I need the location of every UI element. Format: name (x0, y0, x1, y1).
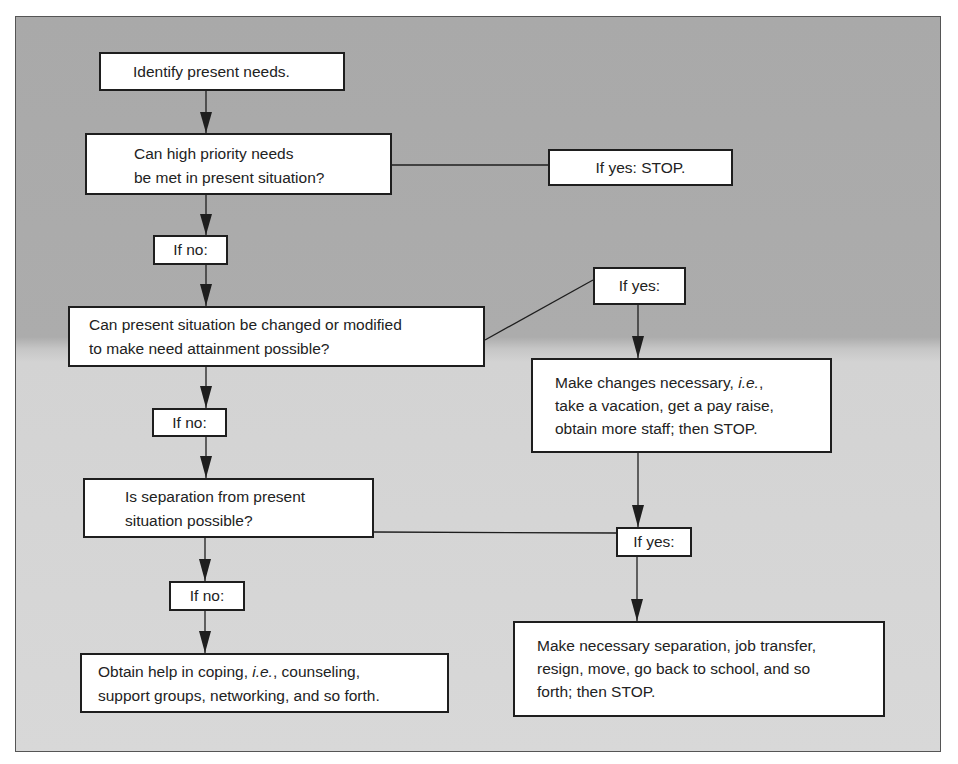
node-if-no-3: If no: (169, 581, 245, 611)
node-question-high-priority: Can high priority needs be met in presen… (85, 133, 392, 195)
node-if-no-2: If no: (152, 408, 227, 437)
node-question-separation: Is separation from present situation pos… (83, 478, 374, 538)
node-text-line-3: obtain more staff; then STOP. (555, 419, 774, 439)
node-text-line-1: Is separation from present (125, 487, 305, 507)
node-text-line-1: Make changes necessary, i.e., (555, 373, 774, 393)
node-text-line-2: to make need attainment possible? (89, 339, 402, 359)
node-text-line-2: situation possible? (125, 511, 305, 531)
node-if-no-1: If no: (153, 235, 228, 265)
node-if-yes-stop: If yes: STOP. (548, 149, 733, 186)
node-obtain-help: Obtain help in coping, i.e., counseling,… (80, 653, 449, 713)
node-text-line-2: be met in present situation? (134, 168, 324, 188)
node-text: If yes: (619, 276, 660, 296)
node-text-line-1: Can present situation be changed or modi… (89, 315, 402, 335)
node-if-yes-3: If yes: (616, 527, 692, 557)
node-question-change-situation: Can present situation be changed or modi… (68, 306, 485, 367)
node-text: If yes: STOP. (596, 158, 686, 178)
node-text-line-2: support groups, networking, and so forth… (98, 686, 380, 706)
node-text: If no: (173, 240, 207, 260)
node-identify-present-needs: Identify present needs. (99, 52, 345, 91)
node-text-line-1: Make necessary separation, job transfer, (537, 636, 816, 656)
node-text-line-1: Obtain help in coping, i.e., counseling, (98, 662, 380, 682)
node-text-line-2: resign, move, go back to school, and so (537, 659, 816, 679)
node-if-yes-2: If yes: (593, 267, 686, 305)
node-text-line-2: take a vacation, get a pay raise, (555, 396, 774, 416)
node-text: If no: (172, 413, 206, 433)
node-text-line-3: forth; then STOP. (537, 682, 816, 702)
node-make-separation: Make necessary separation, job transfer,… (513, 621, 885, 717)
node-text: If yes: (633, 532, 674, 552)
node-text: If no: (190, 586, 224, 606)
node-text: Identify present needs. (133, 62, 290, 82)
node-make-changes: Make changes necessary, i.e., take a vac… (531, 358, 832, 453)
node-text-line-1: Can high priority needs (134, 144, 324, 164)
